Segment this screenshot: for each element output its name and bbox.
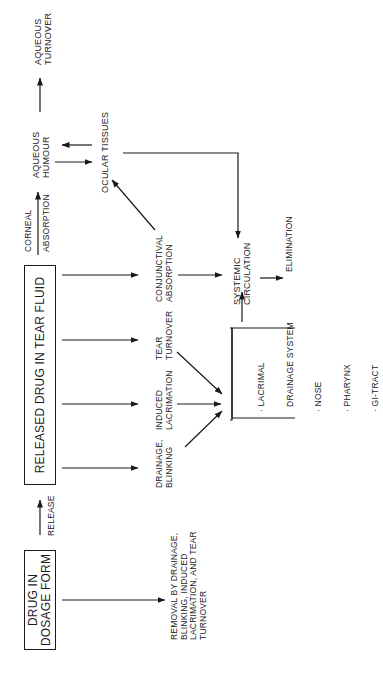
elimination-node: ELIMINATION (285, 216, 295, 272)
aqueous-humour-line-2: HUMOUR (42, 132, 52, 178)
induced-line-2: LACRIMATION (165, 370, 175, 430)
lacrimal-group-node: · LACRIMAL DRAINAGE SYSTEM · NOSE · PHAR… (238, 322, 383, 412)
lacrimal-item-1b: DRAINAGE SYSTEM (286, 322, 296, 412)
conjunctival-line-2: ABSORPTION (165, 235, 175, 302)
aqueous-humour-node: AQUEOUS HUMOUR (32, 132, 51, 178)
released-drug-label: RELEASED DRUG IN TEAR FLUID (34, 277, 47, 474)
conjunctival-absorption-node: CONJUNCTIVAL ABSORPTION (155, 235, 174, 302)
systemic-line-2: CIRCULATION (243, 242, 253, 305)
aqueous-turnover-line-2: TURNOVER (44, 13, 54, 65)
lacrimal-item-3: · PHARYNX (343, 322, 353, 412)
absorption-label: ABSORPTION (42, 194, 52, 252)
tear-turnover-node: TEAR TURNOVER (155, 311, 174, 360)
removal-line-4: TURNOVER (199, 531, 209, 640)
elimination-label: ELIMINATION (285, 216, 295, 272)
dosage-form-label-2: DOSAGE FORM (40, 554, 53, 646)
dosage-form-box: DRUG IN DOSAGE FORM (24, 550, 56, 650)
release-label: RELEASE (47, 495, 57, 536)
removal-node: REMOVAL BY DRAINAGE, BLINKING, INDUCED L… (170, 531, 208, 640)
corneal-label: CORNEAL (24, 194, 34, 252)
ocular-tissues-label: OCULAR TISSUES (101, 112, 111, 193)
lacrimal-item-2: · NOSE (314, 322, 324, 412)
ocular-tissues-node: OCULAR TISSUES (101, 112, 111, 193)
drainage-blinking-node: DRAINAGE, BLINKING (155, 439, 174, 488)
corneal-absorption-label: CORNEAL ABSORPTION (24, 194, 51, 252)
aqueous-turnover-node: AQUEOUS TURNOVER (34, 13, 53, 65)
induced-lacrimation-node: INDUCED LACRIMATION (155, 370, 174, 430)
released-drug-box: RELEASED DRUG IN TEAR FLUID (24, 265, 56, 485)
tear-line-2: TURNOVER (165, 311, 175, 360)
lacrimal-item-4: · GI-TRACT (371, 322, 381, 412)
lacrimal-item-1: · LACRIMAL (257, 322, 267, 412)
drainage-line-2: BLINKING (165, 439, 175, 488)
systemic-circulation-node: SYSTEMIC CIRCULATION (233, 242, 252, 305)
